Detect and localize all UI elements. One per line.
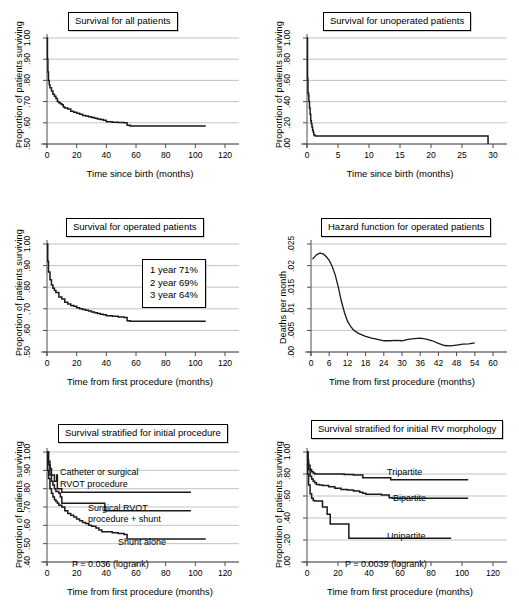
x-tick-label-survival-stratified-initial-procedure-0: 0 — [33, 568, 61, 578]
x-tick-label-survival-all-patients-6: 120 — [211, 150, 239, 160]
x-tick-label-survival-unoperated-patients-0: 0 — [293, 150, 321, 160]
x-tick-label-survival-operated-patients-3: 60 — [122, 358, 150, 368]
curve-label-catheter-2-survival-stratified-initial-procedure: RVOT procedure — [60, 478, 128, 490]
curve-hazard-operated-patients-0 — [313, 253, 475, 346]
curve-label-shunt-alone-survival-stratified-initial-procedure: Shunt alone — [118, 536, 166, 548]
y-tick-label-hazard-operated-patients-5: .025 — [285, 230, 297, 258]
survival-stat-row-1: 2 year 69% — [150, 277, 198, 290]
x-tick-label-survival-stratified-rv-morphology-6: 120 — [479, 568, 507, 578]
panel-survival-all-patients: Survival for all patientsProportion of p… — [0, 0, 259, 200]
curve-survival-stratified-rv-morphology-2 — [307, 452, 451, 538]
y-tick-label-survival-stratified-rv-morphology-5: 1.00 — [281, 438, 293, 466]
x-tick-label-survival-operated-patients-1: 20 — [63, 358, 91, 368]
x-tick-label-survival-stratified-initial-procedure-5: 100 — [181, 568, 209, 578]
curve-survival-all-patients-0 — [47, 38, 206, 126]
curve-survival-unoperated-patients-0 — [307, 38, 488, 144]
x-tick-label-survival-operated-patients-2: 40 — [92, 358, 120, 368]
panel-survival-stratified-rv-morphology: Survival stratified for initial RV morph… — [259, 408, 519, 612]
plot-area-survival-unoperated-patients — [259, 0, 519, 200]
curve-label-unipartite-survival-stratified-rv-morphology: Unipartite — [387, 530, 426, 542]
x-tick-label-survival-all-patients-5: 100 — [181, 150, 209, 160]
plot-area-survival-all-patients — [0, 0, 259, 200]
x-tick-label-survival-stratified-initial-procedure-4: 80 — [152, 568, 180, 578]
pvalue-label-survival-stratified-initial-procedure: P = 0.036 (logrank) — [72, 558, 149, 570]
x-tick-label-survival-all-patients-0: 0 — [33, 150, 61, 160]
x-tick-label-survival-operated-patients-4: 80 — [152, 358, 180, 368]
curve-label-catheter-1-survival-stratified-initial-procedure: Catheter or surgical — [60, 466, 139, 478]
survival-stat-row-2: 3 year 64% — [150, 289, 198, 302]
x-tick-label-survival-operated-patients-5: 100 — [181, 358, 209, 368]
y-tick-label-survival-operated-patients-5: 1.00 — [21, 230, 33, 258]
curve-label-bipartite-survival-stratified-rv-morphology: Bipartite — [393, 492, 426, 504]
x-tick-label-survival-all-patients-2: 40 — [92, 150, 120, 160]
x-tick-label-survival-operated-patients-0: 0 — [33, 358, 61, 368]
survival-stat-row-0: 1 year 71% — [150, 264, 198, 277]
x-tick-label-survival-unoperated-patients-1: 5 — [324, 150, 352, 160]
x-tick-label-survival-unoperated-patients-6: 30 — [479, 150, 507, 160]
x-tick-label-survival-stratified-initial-procedure-6: 120 — [211, 568, 239, 578]
plot-area-survival-stratified-rv-morphology — [259, 408, 519, 612]
curve-label-surgical-2-survival-stratified-initial-procedure: procedure + shunt — [88, 513, 161, 525]
y-tick-label-survival-stratified-initial-procedure-6: 1.00 — [21, 438, 33, 466]
x-tick-label-survival-unoperated-patients-3: 15 — [386, 150, 414, 160]
x-tick-label-survival-stratified-rv-morphology-0: 0 — [293, 568, 321, 578]
x-tick-label-survival-stratified-rv-morphology-5: 100 — [448, 568, 476, 578]
y-tick-label-survival-unoperated-patients-5: 1.00 — [281, 24, 293, 52]
panel-survival-unoperated-patients: Survival for unoperated patientsProporti… — [259, 0, 519, 200]
x-tick-label-survival-unoperated-patients-2: 10 — [355, 150, 383, 160]
x-tick-label-hazard-operated-patients-10: 60 — [479, 358, 507, 368]
x-tick-label-survival-unoperated-patients-4: 20 — [417, 150, 445, 160]
x-tick-label-survival-unoperated-patients-5: 25 — [448, 150, 476, 160]
x-tick-label-survival-all-patients-4: 80 — [152, 150, 180, 160]
figure-panel-grid: Survival for all patientsProportion of p… — [0, 0, 519, 612]
pvalue-label-survival-stratified-rv-morphology: P = 0.0039 (logrank) — [345, 558, 427, 570]
curve-label-tripartite-survival-stratified-rv-morphology: Tripartite — [387, 466, 422, 478]
plot-area-hazard-operated-patients — [259, 204, 519, 405]
panel-survival-stratified-initial-procedure: Survival stratified for initial procedur… — [0, 408, 259, 612]
plot-area-survival-operated-patients — [0, 204, 259, 405]
survival-stats-box: 1 year 71%2 year 69%3 year 64% — [142, 259, 206, 308]
x-tick-label-survival-all-patients-1: 20 — [63, 150, 91, 160]
x-tick-label-survival-all-patients-3: 60 — [122, 150, 150, 160]
panel-hazard-operated-patients: Hazard function for operated patientsDea… — [259, 204, 519, 405]
y-tick-label-survival-all-patients-5: 1.00 — [21, 24, 33, 52]
panel-survival-operated-patients: Survival for operated patientsProportion… — [0, 204, 259, 405]
x-tick-label-survival-operated-patients-6: 120 — [211, 358, 239, 368]
